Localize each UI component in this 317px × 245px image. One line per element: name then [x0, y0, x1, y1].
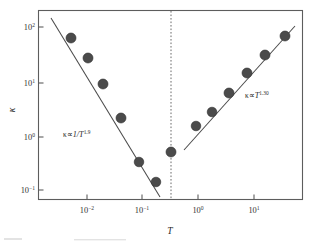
data-point: [260, 50, 270, 60]
y-tick-label-100: 102: [24, 22, 35, 32]
data-point: [98, 79, 108, 89]
x-tick-label-0.1: 10−1: [135, 205, 150, 215]
y-tick-label-10: 101: [24, 78, 35, 88]
scan-artifact: [4, 238, 22, 240]
data-point: [280, 31, 290, 41]
data-point: [242, 68, 252, 78]
x-tick-label-1: 100: [192, 205, 203, 215]
y-axis-label: κ: [6, 107, 17, 112]
data-point: [134, 157, 144, 167]
data-point: [151, 177, 161, 187]
left-fit-line: [51, 18, 160, 197]
right-branch-points: [191, 31, 290, 131]
plot-svg: 102 101 100 10−1 10−2 10−1 100 101 κ T: [0, 0, 317, 245]
left-fit-annotation: κ∝1/T1.9: [63, 129, 91, 139]
y-tick-label-1: 100: [24, 132, 35, 142]
data-point: [191, 121, 201, 131]
right-fit-annotation: κ∝T1.30: [245, 90, 269, 100]
data-point: [66, 33, 76, 43]
left-branch-points: [66, 33, 161, 187]
minimum-data-point: [166, 147, 176, 157]
plot-frame: [39, 11, 303, 200]
y-tick-marks: [39, 27, 44, 190]
thermal-conductivity-plot: 102 101 100 10−1 10−2 10−1 100 101 κ T: [0, 0, 317, 245]
right-fit-line: [184, 26, 295, 150]
data-point: [83, 53, 93, 63]
data-point: [116, 113, 126, 123]
data-point: [207, 107, 217, 117]
x-axis-label: T: [167, 225, 173, 236]
data-point: [224, 88, 234, 98]
scan-artifact: [74, 239, 126, 240]
x-tick-label-10: 101: [248, 205, 259, 215]
y-tick-label-0.1: 10−1: [21, 185, 36, 195]
x-tick-label-0.01: 10−2: [80, 205, 95, 215]
